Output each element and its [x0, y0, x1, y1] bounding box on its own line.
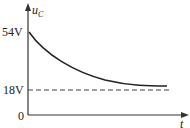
y-axis-label: uC [32, 4, 43, 19]
decay-curve [29, 32, 167, 86]
origin-label: 0 [18, 110, 24, 122]
tick-54v: 54V [2, 26, 23, 38]
tick-18v: 18V [3, 84, 24, 96]
x-axis-label: t [180, 118, 183, 128]
chart-canvas [0, 0, 190, 128]
y-axis-arrow-icon [25, 3, 31, 11]
